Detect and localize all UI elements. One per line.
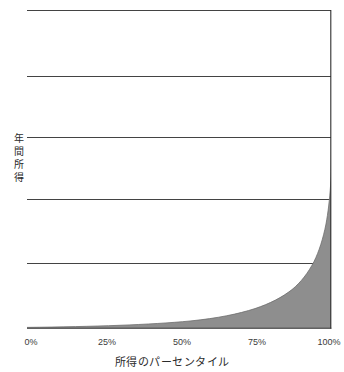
chart-container: 年 間 所 得 0% 25% 50% 75% 100% 所得のパーセンタイル [0, 0, 344, 372]
y-axis-label-char-1: 間 [10, 145, 28, 158]
x-tick-label-0: 0% [24, 337, 37, 347]
area-series-annual-income [27, 146, 332, 328]
x-tick-label-75: 75% [248, 337, 266, 347]
y-axis-label-char-2: 所 [10, 158, 28, 171]
x-tick-label-50: 50% [173, 337, 191, 347]
y-axis-label-char-0: 年 [10, 132, 28, 145]
x-tick-label-100: 100% [317, 337, 340, 347]
income-percentile-area-chart [0, 0, 344, 372]
y-axis-label-char-3: 得 [10, 171, 28, 184]
area-fill [27, 146, 332, 328]
x-tick-label-25: 25% [98, 337, 116, 347]
gridlines-horizontal [27, 11, 331, 264]
y-axis-label: 年 間 所 得 [10, 132, 28, 184]
x-axis-title: 所得のパーセンタイル [0, 353, 344, 369]
